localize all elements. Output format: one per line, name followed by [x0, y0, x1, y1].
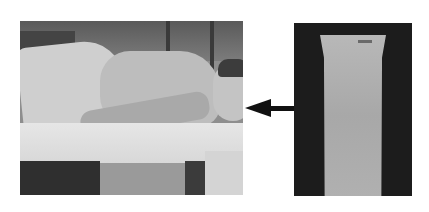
arrow-shaft: [270, 106, 294, 111]
patient-hair: [218, 59, 243, 77]
patient-on-bed-photo: [20, 21, 243, 195]
bed-frame: [20, 161, 100, 195]
cushion-pad: [320, 35, 386, 196]
bed-items: [100, 163, 190, 195]
pad-label: [358, 40, 372, 43]
pad-photo: [294, 23, 412, 196]
bed-sheet: [205, 151, 243, 195]
left-arrow-icon: [245, 99, 294, 118]
arrow-head: [245, 99, 271, 117]
bed-frame: [185, 161, 205, 195]
